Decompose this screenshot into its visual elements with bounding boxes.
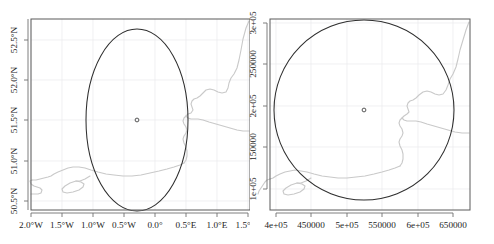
x-tick-label-projected: 6e+05 <box>406 220 429 230</box>
x-tick-label-geographic: 1.5°W <box>50 220 74 230</box>
x-tick-label-geographic: 0.5°E <box>176 220 197 230</box>
projected-plot-svg: 4e+05 450000 5e+05 550000 6e+05 650000 1… <box>247 0 494 244</box>
centre-point-marker <box>362 108 366 112</box>
geographic-plot-svg: 2.0°W 1.5°W 1.0°W 0.5°W 0.0° 0.5°E 1.0°E… <box>0 0 250 244</box>
x-axis-projected <box>276 213 453 217</box>
y-tick-label-geographic: 50.5°N <box>9 187 19 214</box>
y-axis-projected <box>263 23 267 189</box>
x-tick-label-projected: 550000 <box>368 220 396 230</box>
x-tick-label-projected: 4e+05 <box>264 220 287 230</box>
plot-panel-projected: 4e+05 450000 5e+05 550000 6e+05 650000 1… <box>247 0 494 244</box>
x-tick-label-geographic: 1.0°E <box>207 220 228 230</box>
y-tick-label-projected: 250000 <box>248 50 258 78</box>
plot-panel-geographic: 2.0°W 1.5°W 1.0°W 0.5°W 0.0° 0.5°E 1.0°E… <box>0 0 250 244</box>
x-tick-label-geographic: 0.5°W <box>112 220 136 230</box>
x-tick-label-projected: 650000 <box>439 220 467 230</box>
coastline-geographic <box>30 21 249 194</box>
y-tick-label-geographic: 51.0°N <box>9 147 19 174</box>
gridlines-geographic <box>31 19 250 210</box>
x-tick-label-geographic: 0.0° <box>147 220 162 230</box>
x-tick-label-geographic: 1.0°W <box>81 220 105 230</box>
buffer-outline-circle <box>274 20 454 200</box>
y-tick-label-projected: 150000 <box>248 133 258 161</box>
y-tick-label-geographic: 51.5°N <box>9 106 19 133</box>
x-tick-label-geographic: 2.0°W <box>19 220 43 230</box>
y-tick-label-projected: 1e+05 <box>248 177 258 200</box>
x-axis-geographic <box>31 213 248 217</box>
figure-canvas: 2.0°W 1.5°W 1.0°W 0.5°W 0.0° 0.5°E 1.0°E… <box>0 0 494 244</box>
x-tick-label-projected: 5e+05 <box>335 220 358 230</box>
plot-box-projected <box>270 19 470 210</box>
y-tick-label-projected: 2e+05 <box>248 94 258 117</box>
y-tick-label-projected: 3e+05 <box>248 11 258 34</box>
y-tick-label-geographic: 52.5°N <box>9 26 19 53</box>
x-tick-label-projected: 450000 <box>297 220 325 230</box>
gridlines-projected <box>270 19 470 210</box>
y-tick-label-geographic: 52.0°N <box>9 66 19 93</box>
y-axis-geographic <box>24 19 28 210</box>
